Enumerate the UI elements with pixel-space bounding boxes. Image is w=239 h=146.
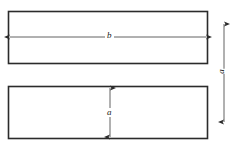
height-dimension-label: a [105,108,114,117]
figure-canvas: b a a [0,0,239,146]
width-dimension-label: b [105,31,114,40]
spacing-dimension-label: a [216,69,227,74]
technical-drawing [0,0,239,146]
